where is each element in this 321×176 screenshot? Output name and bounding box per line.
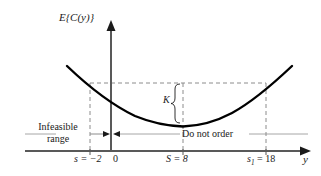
- infeasible-range-line1: Infeasible: [38, 121, 77, 132]
- expected-cost-curve-figure: E{C(y)} y s = −2 0 S = 8 s1 = 18 Infeasi…: [0, 0, 321, 176]
- tick-label-s1: s1 = 18: [247, 153, 275, 167]
- infeasible-range-label: Infeasible range: [29, 121, 87, 144]
- tick-label-S: S = 8: [166, 153, 188, 165]
- x-axis-label: y: [303, 153, 308, 166]
- tick-label-s1-value: = 18: [255, 153, 276, 164]
- y-axis-label: E{C(y)}: [59, 11, 94, 24]
- infeasible-range-line2: range: [47, 133, 69, 144]
- tick-label-s: s = −2: [74, 153, 101, 165]
- y-axis-arrowhead: [107, 20, 116, 31]
- do-not-order-label: Do not order: [182, 128, 233, 140]
- infeasible-arrow-head: [103, 131, 110, 137]
- tick-label-zero: 0: [113, 153, 118, 165]
- do-not-order-arrow-head: [113, 131, 120, 137]
- expected-cost-curve: [67, 66, 292, 127]
- k-brace: [171, 84, 180, 123]
- figure-canvas: [0, 0, 321, 176]
- k-brace-label: K: [163, 94, 170, 106]
